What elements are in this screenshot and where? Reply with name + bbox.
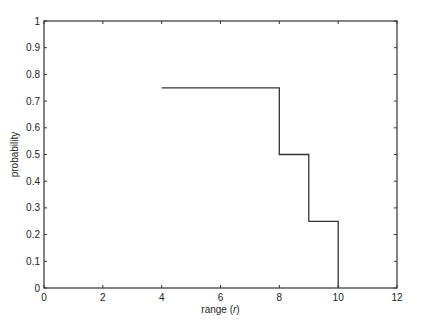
y-tick-label: 0 [34,283,40,294]
axes-frame [44,21,397,288]
x-tick-label: 12 [391,292,403,303]
x-tick-label: 4 [159,292,165,303]
y-axis-label: probability [9,132,20,178]
x-axis-label-text: range ( [201,304,233,315]
x-tick-label: 0 [41,292,47,303]
y-tick-label: 0.4 [26,176,40,187]
x-tick-label: 2 [100,292,106,303]
probability-step-line [162,88,339,288]
x-tick-label: 10 [333,292,345,303]
y-tick-label: 0.8 [26,69,40,80]
y-tick-label: 0.5 [26,149,40,160]
x-axis-ticks: 024681012 [41,21,403,303]
y-tick-label: 0.3 [26,202,40,213]
y-tick-label: 0.7 [26,96,40,107]
y-tick-label: 0.2 [26,229,40,240]
x-axis-label-close: ) [236,304,239,315]
y-tick-label: 0.1 [26,256,40,267]
x-tick-label: 6 [218,292,224,303]
y-tick-label: 0.9 [26,42,40,53]
step-chart: 024681012 00.10.20.30.40.50.60.70.80.91 … [0,0,425,326]
x-tick-label: 8 [277,292,283,303]
y-axis-ticks: 00.10.20.30.40.50.60.70.80.91 [26,16,397,294]
x-axis-label: range (r) [201,304,239,315]
y-tick-label: 0.6 [26,122,40,133]
y-tick-label: 1 [34,16,40,27]
